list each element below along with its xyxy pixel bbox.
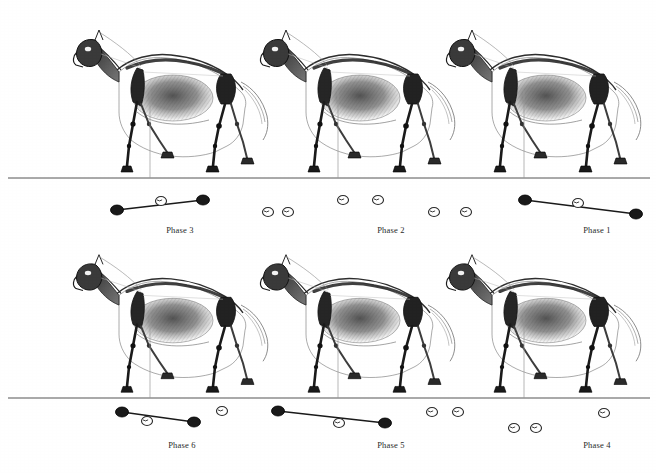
phase-caption-phase-6: Phase 6	[168, 440, 196, 450]
footfall-marker-grounded[interactable]	[630, 209, 643, 219]
horse-skeleton-drawing	[446, 255, 640, 393]
footfall-marker-grounded[interactable]	[116, 407, 129, 417]
footfall-marker-grounded[interactable]	[111, 205, 124, 215]
diagonal-limb-connector	[278, 411, 385, 423]
phase-caption-phase-1: Phase 1	[583, 225, 611, 235]
horse-skeleton-drawing	[446, 30, 640, 172]
phase-caption-phase-5: Phase 5	[377, 440, 405, 450]
diagonal-limb-connector	[122, 412, 194, 422]
footfall-marker-grounded[interactable]	[272, 406, 285, 416]
phase-caption-phase-3: Phase 3	[166, 225, 194, 235]
horse-skeleton-drawing	[260, 30, 454, 172]
horse-skeleton-drawing	[73, 255, 267, 393]
gait-row	[8, 30, 650, 219]
footfall-marker-grounded[interactable]	[519, 195, 532, 205]
horse-skeleton-drawing	[260, 255, 454, 393]
phase-group-phase-6[interactable]	[73, 255, 267, 427]
phase-caption-phase-4: Phase 4	[583, 440, 611, 450]
horse-skeleton-drawing	[73, 30, 267, 172]
footfall-marker-grounded[interactable]	[188, 417, 201, 427]
footfall-marker-grounded[interactable]	[379, 418, 392, 428]
gait-illustration-canvas	[0, 0, 656, 473]
phase-caption-phase-2: Phase 2	[377, 225, 405, 235]
phase-group-phase-1[interactable]	[446, 30, 642, 219]
phase-group-phase-2[interactable]	[260, 30, 471, 217]
phase-group-phase-5[interactable]	[260, 255, 463, 428]
horse-gait-figure: Phase 3Phase 2Phase 1Phase 6Phase 5Phase…	[0, 0, 656, 473]
phase-group-phase-3[interactable]	[73, 30, 267, 215]
gait-row	[8, 255, 650, 433]
phase-group-phase-4[interactable]	[446, 255, 640, 433]
footfall-marker-grounded[interactable]	[197, 195, 210, 205]
